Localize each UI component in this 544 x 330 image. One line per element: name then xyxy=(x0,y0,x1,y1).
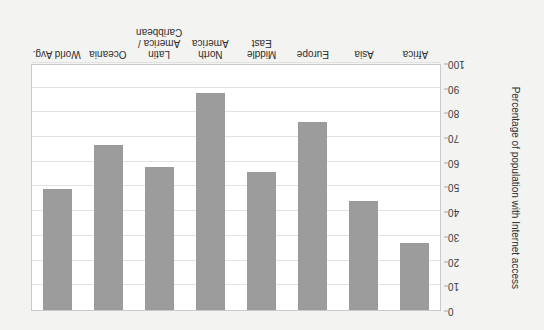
y-axis-tick-mark xyxy=(444,286,449,287)
bar-slot xyxy=(338,65,389,310)
y-axis-tick-label: 80 xyxy=(448,108,459,119)
y-axis-title-text: Percentage of population with Internet a… xyxy=(509,86,521,288)
bar-series xyxy=(32,65,440,310)
bar-slot xyxy=(389,65,440,310)
category-label: Asia xyxy=(339,13,390,63)
y-axis-tick-label: 60 xyxy=(448,157,459,168)
y-axis-tick-mark xyxy=(444,261,449,262)
bar xyxy=(247,172,275,310)
bar-slot xyxy=(185,65,236,310)
y-axis-tick-mark xyxy=(444,311,449,312)
y-axis-tick-label: 30 xyxy=(448,231,459,242)
category-label: North America xyxy=(185,13,236,63)
y-axis-tick-label: 40 xyxy=(448,207,459,218)
y-axis-tick-label: 90 xyxy=(448,83,459,94)
category-label: Latin America / Caribbean xyxy=(134,13,185,63)
category-label: Oceania xyxy=(82,13,133,63)
y-axis-tick-mark xyxy=(444,88,449,89)
bar-slot xyxy=(134,65,185,310)
bar xyxy=(196,93,224,310)
y-axis-tick-label: 10 xyxy=(448,281,459,292)
y-axis-tick-mark xyxy=(444,212,449,213)
y-axis-tick-label: 50 xyxy=(448,182,459,193)
bar-slot xyxy=(236,65,287,310)
bar xyxy=(298,122,326,310)
y-axis: 0102030405060708090100 xyxy=(444,64,484,311)
category-label: Europe xyxy=(287,13,338,63)
bar xyxy=(43,189,71,310)
y-axis-tick-mark xyxy=(444,113,449,114)
bar-slot xyxy=(83,65,134,310)
y-axis-tick-mark xyxy=(444,236,449,237)
y-axis-tick-mark xyxy=(444,64,449,65)
category-label: Africa xyxy=(390,13,441,63)
bar xyxy=(145,167,173,310)
y-axis-tick-label: 70 xyxy=(448,133,459,144)
bar xyxy=(349,201,377,310)
bar-slot xyxy=(32,65,83,310)
y-axis-tick-mark xyxy=(444,162,449,163)
bar xyxy=(400,243,428,310)
category-label: Middle East xyxy=(236,13,287,63)
plot-area xyxy=(31,64,441,311)
y-axis-tick-label: 20 xyxy=(448,256,459,267)
bar-slot xyxy=(287,65,338,310)
chart-figure: Percentage of population with Internet a… xyxy=(0,0,544,330)
y-axis-tick-label: 100 xyxy=(448,59,465,70)
bar xyxy=(94,145,122,310)
y-axis-tick-mark xyxy=(444,187,449,188)
y-axis-tick-mark xyxy=(444,138,449,139)
category-label: World Avg. xyxy=(31,13,82,63)
y-axis-title: Percentage of population with Internet a… xyxy=(492,64,538,311)
x-axis-category-labels: AfricaAsiaEuropeMiddle EastNorth America… xyxy=(31,13,441,63)
